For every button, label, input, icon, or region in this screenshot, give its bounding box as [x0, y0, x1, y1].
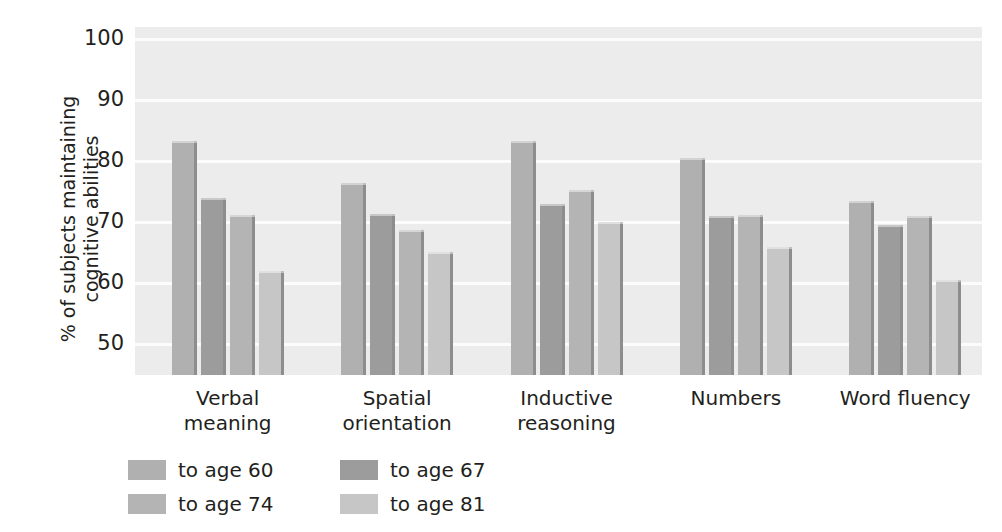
bar-group [680, 27, 792, 375]
y-tick-60: 60 [68, 272, 124, 293]
bar-shadow-edge [194, 141, 197, 375]
bar-face [399, 230, 421, 375]
bar-shadow-edge [533, 141, 536, 375]
bar-group [511, 27, 623, 375]
bar [399, 230, 424, 375]
y-axis-tick-labels: 5060708090100 [62, 0, 124, 400]
bar-top-highlight [598, 222, 623, 224]
bar-chart: % of subjects maintaining cognitive abil… [0, 0, 1002, 532]
bar [767, 247, 792, 375]
bar [370, 214, 395, 375]
y-tick-90: 90 [68, 89, 124, 110]
legend-label: to age 81 [390, 494, 486, 514]
bar [709, 216, 734, 375]
bar-top-highlight [172, 141, 197, 143]
x-tick-label: Word fluency [795, 386, 1002, 411]
bar [849, 201, 874, 375]
bar-shadow-edge [900, 225, 903, 375]
bar-shadow-edge [252, 215, 255, 375]
bar-shadow-edge [392, 214, 395, 375]
bar [738, 215, 763, 375]
y-tick-50: 50 [68, 333, 124, 354]
bar-face [767, 247, 789, 375]
bar-shadow-edge [760, 215, 763, 375]
legend-item: to age 81 [340, 489, 540, 519]
bar [540, 204, 565, 375]
bar-shadow-edge [223, 198, 226, 375]
bar-face [341, 183, 363, 375]
legend-label: to age 60 [178, 460, 274, 480]
bar-top-highlight [540, 204, 565, 206]
bar [569, 190, 594, 375]
y-tick-70: 70 [68, 211, 124, 232]
bar-face [511, 141, 533, 375]
bar-shadow-edge [281, 271, 284, 375]
bar-face [878, 225, 900, 375]
y-tick-100: 100 [68, 28, 124, 49]
bar-top-highlight [849, 201, 874, 203]
bar-shadow-edge [562, 204, 565, 375]
bar [680, 158, 705, 375]
legend-swatch [340, 460, 378, 480]
legend-swatch [128, 494, 166, 514]
bar-group [172, 27, 284, 375]
bar-shadow-edge [421, 230, 424, 375]
legend-item: to age 60 [128, 455, 328, 485]
bar-face [849, 201, 871, 375]
bar-top-highlight [230, 215, 255, 217]
bar [878, 225, 903, 375]
bar-shadow-edge [620, 222, 623, 375]
bar-shadow-edge [591, 190, 594, 375]
bar-top-highlight [259, 271, 284, 273]
bar-face [370, 214, 392, 375]
plot-area [135, 27, 982, 375]
bar-shadow-edge [731, 216, 734, 375]
bar-face [598, 222, 620, 375]
bar-group [849, 27, 961, 375]
bar-top-highlight [569, 190, 594, 192]
bar-face [540, 204, 562, 375]
bar [511, 141, 536, 375]
bar [201, 198, 226, 375]
bar-shadow-edge [789, 247, 792, 375]
bar [172, 141, 197, 375]
bar-face [907, 216, 929, 375]
bar-top-highlight [767, 247, 792, 249]
bar-top-highlight [201, 198, 226, 200]
bar-face [738, 215, 760, 375]
bar-shadow-edge [929, 216, 932, 375]
bar-top-highlight [738, 215, 763, 217]
bar [230, 215, 255, 375]
bar-shadow-edge [702, 158, 705, 375]
bar [598, 222, 623, 375]
bar-top-highlight [709, 216, 734, 218]
bar-face [428, 252, 450, 375]
bar-face [569, 190, 591, 375]
bar-top-highlight [511, 141, 536, 143]
bar-face [259, 271, 281, 375]
bar-face [680, 158, 702, 375]
bar-top-highlight [399, 230, 424, 232]
bar-top-highlight [370, 214, 395, 216]
bar-face [172, 141, 194, 375]
bar-top-highlight [680, 158, 705, 160]
y-tick-80: 80 [68, 150, 124, 171]
bar-shadow-edge [958, 280, 961, 375]
bar-group [341, 27, 453, 375]
legend-label: to age 74 [178, 494, 274, 514]
bar-top-highlight [936, 280, 961, 282]
legend-swatch [128, 460, 166, 480]
bar [428, 252, 453, 375]
bar-top-highlight [907, 216, 932, 218]
bar-top-highlight [428, 252, 453, 254]
bar [936, 280, 961, 375]
bar-top-highlight [878, 225, 903, 227]
bar [341, 183, 366, 375]
bar-face [936, 280, 958, 375]
bar [259, 271, 284, 375]
legend: to age 60to age 67to age 74to age 81 [128, 455, 548, 519]
bar-top-highlight [341, 183, 366, 185]
legend-item: to age 74 [128, 489, 328, 519]
bar-shadow-edge [871, 201, 874, 375]
bar-shadow-edge [450, 252, 453, 375]
